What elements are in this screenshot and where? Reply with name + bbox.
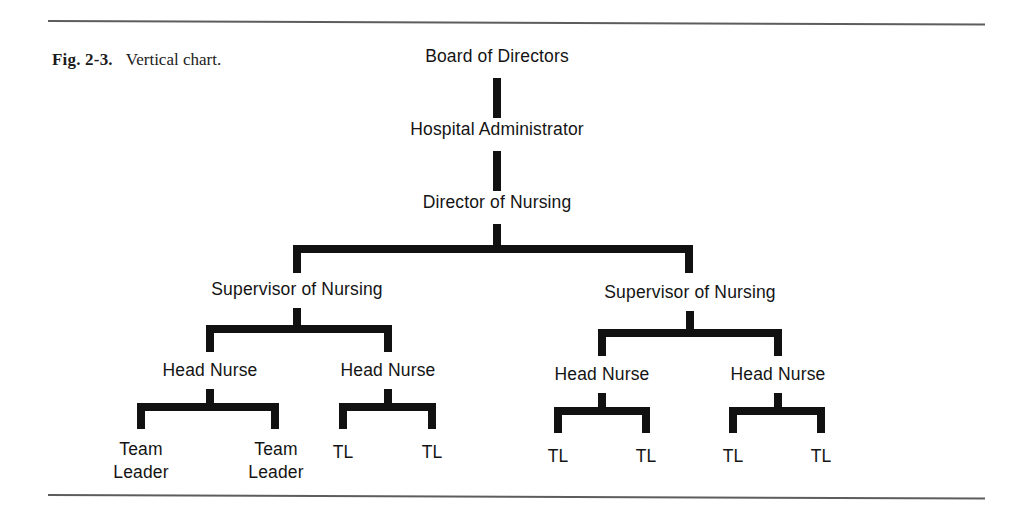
node-director-of-nursing: Director of Nursing: [423, 191, 572, 214]
top-divider-rule: [48, 20, 985, 26]
node-team-leader-1-line2: Leader: [96, 461, 186, 484]
connector-drop-team-leader-1: [137, 403, 145, 429]
connector-supervisor-left-bus: [206, 325, 392, 333]
figure-title: Vertical chart.: [126, 50, 221, 69]
node-tl-8: TL: [811, 445, 832, 468]
connector-drop-tl-5: [554, 407, 562, 433]
node-supervisor-of-nursing-left: Supervisor of Nursing: [211, 278, 382, 301]
connector-head-nurse-4-bus: [729, 407, 825, 415]
node-team-leader-1: Team Leader: [96, 438, 186, 484]
figure-number: Fig. 2-3.: [52, 50, 113, 69]
connector-drop-supervisor-left: [293, 245, 301, 273]
connector-head-nurse-2-bus: [339, 403, 436, 411]
node-tl-6: TL: [636, 445, 657, 468]
connector-drop-tl-6: [642, 407, 650, 433]
node-supervisor-of-nursing-right: Supervisor of Nursing: [604, 281, 775, 304]
node-tl-7: TL: [723, 445, 744, 468]
node-head-nurse-1: Head Nurse: [163, 359, 258, 382]
node-head-nurse-2: Head Nurse: [341, 359, 436, 382]
connector-board-to-administrator: [493, 78, 501, 118]
node-team-leader-2: Team Leader: [231, 438, 321, 484]
node-tl-5: TL: [548, 445, 569, 468]
figure-caption: Fig. 2-3.Vertical chart.: [52, 50, 221, 70]
node-head-nurse-4: Head Nurse: [731, 363, 826, 386]
connector-head-nurse-3-bus: [554, 407, 650, 415]
connector-drop-tl-8: [817, 407, 825, 433]
connector-drop-tl-4: [428, 403, 436, 429]
connector-drop-tl-7: [729, 407, 737, 433]
node-team-leader-2-line2: Leader: [231, 461, 321, 484]
connector-drop-head-nurse-3: [598, 329, 606, 356]
bottom-divider-rule: [48, 494, 985, 500]
node-board-of-directors: Board of Directors: [425, 45, 569, 68]
node-tl-4: TL: [422, 441, 443, 464]
figure-page: Fig. 2-3.Vertical chart. Board of Direct…: [0, 0, 1025, 525]
node-tl-3: TL: [333, 441, 354, 464]
connector-drop-head-nurse-1: [206, 325, 214, 352]
node-team-leader-1-line1: Team: [96, 438, 186, 461]
node-head-nurse-3: Head Nurse: [555, 363, 650, 386]
connector-head-nurse-1-bus: [137, 403, 279, 411]
connector-administrator-to-director: [493, 151, 501, 191]
connector-drop-supervisor-right: [685, 245, 693, 273]
connector-drop-head-nurse-2: [384, 325, 392, 352]
node-hospital-administrator: Hospital Administrator: [410, 118, 584, 141]
connector-drop-head-nurse-4: [774, 329, 782, 356]
connector-drop-team-leader-2: [271, 403, 279, 429]
connector-supervisor-right-bus: [598, 329, 782, 337]
connector-director-bus: [293, 245, 693, 253]
node-team-leader-2-line1: Team: [231, 438, 321, 461]
connector-drop-tl-3: [339, 403, 347, 429]
